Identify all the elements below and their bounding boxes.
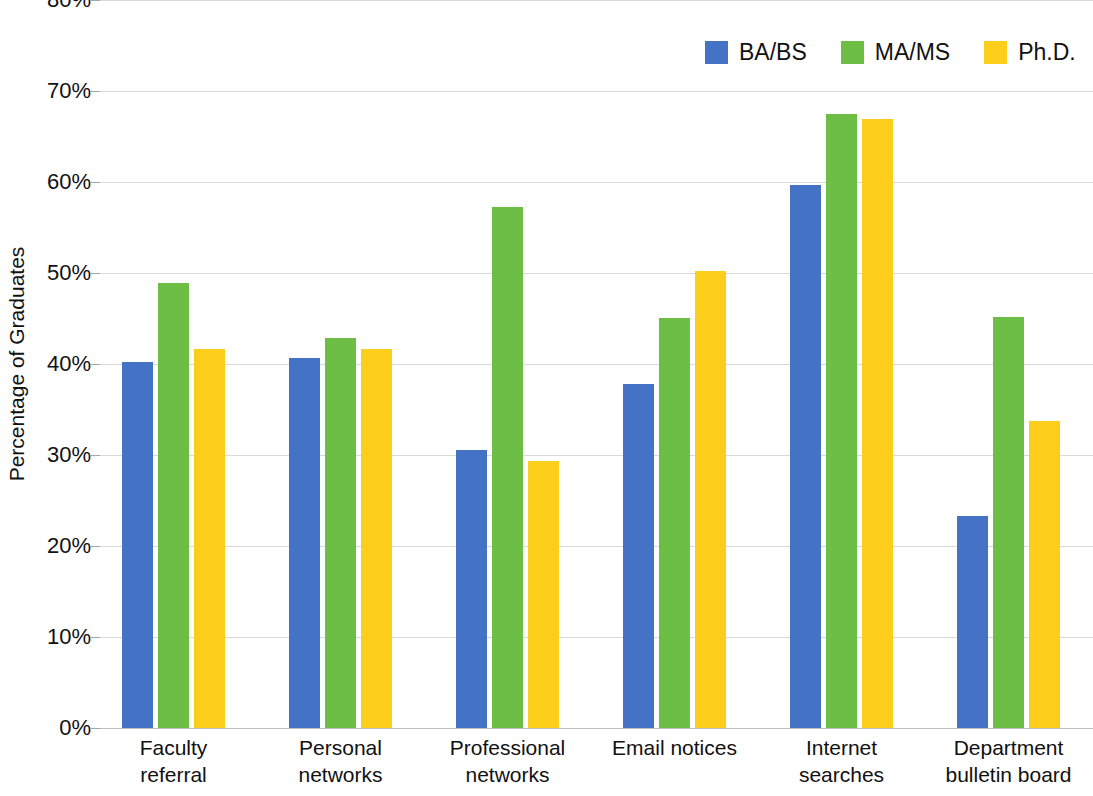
x-axis-category-labels: Faculty referralPersonal networksProfess… — [100, 734, 1093, 796]
legend-color-swatch — [841, 41, 864, 64]
legend-label: Ph.D. — [1018, 41, 1076, 64]
bars-layer — [100, 0, 1093, 728]
bar — [158, 283, 189, 728]
y-axis-tick-label: 60% — [22, 171, 100, 193]
y-axis-tick-labels: 80%70%60%50%40%30%20%10%0% — [0, 0, 100, 796]
y-axis-tick-mark — [91, 637, 100, 638]
y-axis-tick-mark — [91, 728, 100, 729]
bar — [361, 349, 392, 728]
bar-chart: Percentage of Graduates 80%70%60%50%40%3… — [0, 0, 1093, 796]
legend-color-swatch — [705, 41, 728, 64]
y-axis-tick-mark — [91, 364, 100, 365]
bar — [528, 461, 559, 728]
bar — [1029, 421, 1060, 728]
y-axis-tick-mark — [91, 0, 100, 1]
bar — [194, 349, 225, 728]
y-axis-tick-label: 80% — [22, 0, 100, 11]
legend: BA/BSMA/MSPh.D. — [705, 41, 1076, 64]
legend-entry[interactable]: BA/BS — [705, 41, 807, 64]
bar — [957, 516, 988, 728]
bar — [862, 119, 893, 728]
x-axis-category-label: Department bulletin board — [904, 734, 1093, 788]
y-axis-tick-mark — [91, 455, 100, 456]
y-axis-tick-label: 10% — [22, 626, 100, 648]
bar — [456, 450, 487, 728]
bar — [826, 114, 857, 728]
y-axis-tick-mark — [91, 273, 100, 274]
legend-color-swatch — [984, 41, 1007, 64]
y-axis-tick-label: 20% — [22, 535, 100, 557]
y-axis-tick-label: 50% — [22, 262, 100, 284]
bar — [695, 271, 726, 728]
bar — [623, 384, 654, 728]
plot-area — [100, 0, 1093, 728]
legend-entry[interactable]: MA/MS — [841, 41, 950, 64]
legend-label: MA/MS — [875, 41, 950, 64]
bar — [993, 317, 1024, 728]
legend-entry[interactable]: Ph.D. — [984, 41, 1076, 64]
bar — [325, 338, 356, 728]
bar — [492, 207, 523, 728]
y-axis-tick-mark — [91, 182, 100, 183]
gridline — [100, 728, 1093, 729]
bar — [289, 358, 320, 728]
bar — [122, 362, 153, 728]
bar — [659, 318, 690, 728]
y-axis-tick-label: 30% — [22, 444, 100, 466]
bar — [790, 185, 821, 728]
y-axis-tick-label: 40% — [22, 353, 100, 375]
y-axis-tick-mark — [91, 546, 100, 547]
legend-label: BA/BS — [739, 41, 807, 64]
y-axis-tick-mark — [91, 91, 100, 92]
y-axis-tick-label: 70% — [22, 80, 100, 102]
